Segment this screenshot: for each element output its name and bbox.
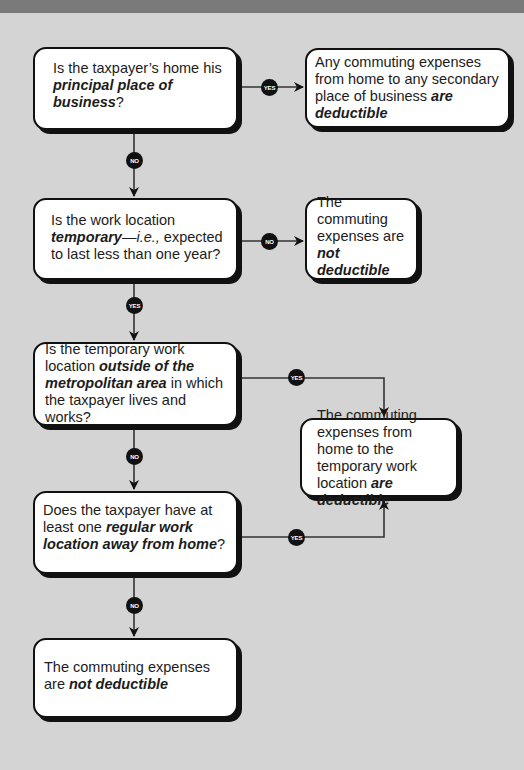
r2-emphasis: not deductible <box>317 245 390 278</box>
result-not-deductible-2: The commuting expenses are not deductibl… <box>33 638 238 718</box>
no-badge-q3: NO <box>126 448 143 465</box>
result-secondary-deductible: Any commuting expenses from home to any … <box>305 48 510 128</box>
q2-ie: i.e., <box>136 229 159 245</box>
q1-suffix: ? <box>116 94 124 110</box>
yes-badge-q1: YES <box>261 79 278 96</box>
r3-text: The commuting expenses from home to the … <box>317 407 417 491</box>
question-temporary: Is the work location temporary—i.e., exp… <box>33 198 238 280</box>
yes-badge-q4: YES <box>288 529 305 546</box>
q1-text: Is the taxpayer’s home his <box>53 60 222 76</box>
no-badge-q1: NO <box>126 152 143 169</box>
q2-emphasis: temporary <box>51 229 122 245</box>
yes-badge-q2: YES <box>126 297 143 314</box>
r4-emphasis: not deductible <box>69 676 168 692</box>
q1-emphasis: principal place of business <box>53 77 172 110</box>
q2-text: Is the work location <box>51 212 175 228</box>
no-badge-q2: NO <box>261 233 278 250</box>
r1-text: Any commuting expenses from home to any … <box>315 54 499 104</box>
q2-dash: — <box>122 229 137 245</box>
question-outside-metro: Is the temporary work location outside o… <box>33 342 238 426</box>
no-badge-q4: NO <box>126 597 143 614</box>
q4-suffix: ? <box>217 536 225 552</box>
result-temporary-deductible: The commuting expenses from home to the … <box>300 418 458 497</box>
result-not-deductible-1: The commuting expenses are not deductibl… <box>305 198 418 280</box>
r2-text: The commuting expenses are <box>317 194 404 244</box>
yes-badge-q3: YES <box>288 369 305 386</box>
question-regular-location: Does the taxpayer have at least one regu… <box>33 491 238 574</box>
question-principal-place: Is the taxpayer’s home his principal pla… <box>33 47 238 130</box>
